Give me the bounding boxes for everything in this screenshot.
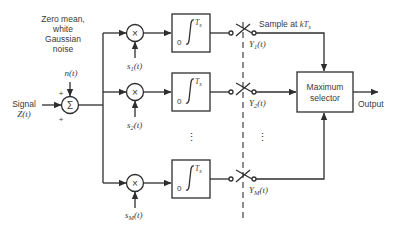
- output-Y1: Y1(t): [249, 39, 266, 50]
- output-YM: YM(t): [249, 185, 268, 196]
- integral-lower-limit: 0: [177, 184, 182, 193]
- plus-sign-top: +: [59, 89, 64, 98]
- ref-signal-1: s1(t): [127, 61, 142, 72]
- svg-text:Gaussian: Gaussian: [45, 34, 81, 44]
- ellipsis-integrators: ⋮: [186, 131, 197, 143]
- noise-description: Zero mean, white Gaussian noise: [41, 14, 84, 54]
- output-label: Output: [358, 99, 384, 109]
- ref-signal-M: sM(t): [125, 210, 142, 221]
- multiply-icon: ×: [132, 87, 138, 98]
- svg-text:Zero mean,: Zero mean,: [41, 14, 84, 24]
- integral-upper-limit: Ts: [195, 77, 202, 87]
- integral-lower-limit: 0: [177, 97, 182, 106]
- selector-label-line2: selector: [310, 93, 340, 103]
- sampler-switch-M: [236, 170, 252, 182]
- selector-label-line1: Maximum: [307, 82, 344, 92]
- ellipsis-outputs: ⋮: [257, 131, 268, 143]
- correlator-receiver-diagram: Zero mean, white Gaussian noise n(t) + +…: [0, 0, 403, 231]
- integral-upper-limit: Ts: [195, 18, 202, 28]
- integral-upper-limit: Ts: [195, 164, 202, 174]
- maximum-selector-block: [297, 72, 353, 112]
- noise-signal-label: n(t): [65, 68, 78, 78]
- sigma-icon: Σ: [67, 100, 73, 111]
- plus-sign-bottom: +: [59, 115, 64, 124]
- ref-signal-2: s2(t): [127, 120, 142, 131]
- multiply-icon: ×: [132, 28, 138, 39]
- signal-var-label: Z(t): [17, 109, 31, 119]
- signal-label: Signal: [12, 99, 36, 109]
- output-Y2: Y2(t): [249, 98, 266, 109]
- svg-text:noise: noise: [53, 44, 74, 54]
- integral-lower-limit: 0: [177, 38, 182, 47]
- sampler-switch-2: [236, 83, 252, 95]
- svg-text:white: white: [52, 24, 73, 34]
- multiply-icon: ×: [132, 178, 138, 189]
- sampler-switch-1: [236, 24, 252, 36]
- sample-label: Sample at kTs: [259, 19, 311, 30]
